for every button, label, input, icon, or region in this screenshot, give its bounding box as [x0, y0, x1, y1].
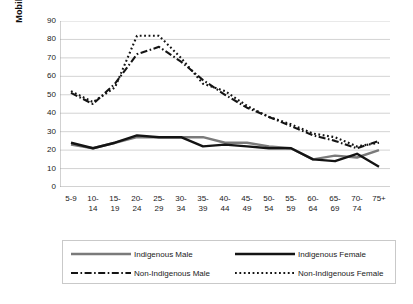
y-tick-label-70: 70 [47, 54, 56, 62]
legend-item-non-indigenous-male[interactable]: Non-Indigenous Male [71, 266, 210, 280]
x-tick-label-65-69: 65- 69 [323, 194, 347, 213]
legend-item-indigenous-female[interactable]: Indigenous Female [235, 247, 366, 261]
y-axis-label-container: Mobility Rate (percent) [0, 0, 30, 200]
x-tick-label-35-39: 35- 39 [191, 194, 215, 213]
x-tick-label-5-9: 5-9 [59, 194, 83, 204]
y-tick-label-0: 0 [52, 183, 56, 191]
x-tick-label-40-44: 40- 44 [213, 194, 237, 213]
x-tick-label-20-24: 20- 24 [125, 194, 149, 213]
legend-key-swatch [71, 268, 131, 278]
y-tick-label-50: 50 [47, 91, 56, 99]
y-tick-label-30: 30 [47, 128, 56, 136]
legend-label: Indigenous Male [134, 250, 193, 259]
x-tick-label-75plus: 75+ [367, 194, 391, 204]
y-tick-label-90: 90 [47, 17, 56, 25]
plot-svg [60, 21, 390, 187]
x-tick-label-15-19: 15- 19 [103, 194, 127, 213]
chart-legend: Indigenous MaleIndigenous FemaleNon-Indi… [62, 240, 396, 284]
legend-key-swatch [235, 268, 295, 278]
legend-label: Indigenous Female [298, 250, 366, 259]
x-tick-label-10-14: 10- 14 [81, 194, 105, 213]
y-tick-label-10: 10 [47, 165, 56, 173]
y-tick-label-20: 20 [47, 146, 56, 154]
y-tick-label-80: 80 [47, 35, 56, 43]
legend-item-non-indigenous-female[interactable]: Non-Indigenous Female [235, 266, 383, 280]
series-line-non-indigenous-male [71, 47, 379, 148]
legend-label: Non-Indigenous Male [134, 269, 210, 278]
x-tick-label-45-49: 45- 49 [235, 194, 259, 213]
x-tick-label-70-74: 70- 74 [345, 194, 369, 213]
legend-key-swatch [235, 249, 295, 259]
x-tick-label-50-54: 50- 54 [257, 194, 281, 213]
x-tick-label-55-59: 55- 59 [279, 194, 303, 213]
y-axis-label: Mobility Rate (percent) [14, 0, 28, 38]
mobility-rate-line-chart: Mobility Rate (percent) 9080706050403020… [0, 0, 413, 304]
series-line-non-indigenous-female [71, 36, 379, 147]
plot-area [60, 21, 390, 187]
legend-key-swatch [71, 249, 131, 259]
legend-item-indigenous-male[interactable]: Indigenous Male [71, 247, 193, 261]
y-tick-label-40: 40 [47, 109, 56, 117]
legend-label: Non-Indigenous Female [298, 269, 383, 278]
y-axis-tick-labels: 9080706050403020100 [30, 0, 56, 200]
x-tick-label-30-34: 30- 34 [169, 194, 193, 213]
y-tick-label-60: 60 [47, 72, 56, 80]
x-tick-label-25-29: 25- 29 [147, 194, 171, 213]
x-tick-label-60-64: 60- 64 [301, 194, 325, 213]
